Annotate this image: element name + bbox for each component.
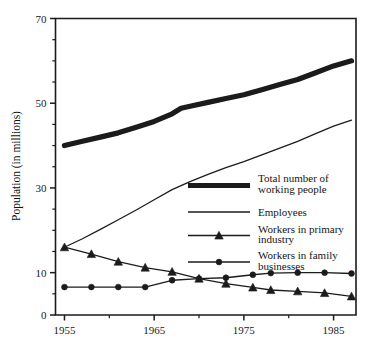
line-chart: Population (in millions) 010305070 19551… (0, 0, 370, 355)
x-tick-label: 1955 (53, 324, 76, 336)
marker-circle (349, 271, 355, 277)
legend-label-line2: businesses (258, 260, 304, 272)
x-tick-label: 1975 (233, 324, 256, 336)
x-tick-label: 1985 (323, 324, 346, 336)
y-tick-label: 70 (36, 13, 48, 25)
x-tick-label: 1965 (143, 324, 166, 336)
marker-circle (115, 284, 121, 290)
legend-label-line1: Employees (258, 206, 307, 218)
marker-circle (142, 284, 148, 290)
marker-circle (322, 270, 328, 276)
legend-label-line2: industry (258, 233, 295, 245)
legend-label-line2: working people (258, 183, 327, 195)
legend-swatch-circle (216, 259, 222, 265)
marker-circle (169, 277, 175, 283)
marker-circle (196, 276, 202, 282)
y-axis-title: Population (in millions) (10, 111, 23, 221)
y-tick-label: 10 (36, 267, 48, 279)
marker-circle (62, 284, 68, 290)
marker-circle (250, 272, 256, 278)
y-tick-label: 30 (36, 182, 48, 194)
marker-circle (223, 275, 229, 281)
y-tick-label: 50 (36, 97, 48, 109)
y-axis-title-label: Population (in millions) (10, 111, 23, 221)
marker-circle (88, 284, 94, 290)
y-tick-label: 0 (41, 309, 47, 321)
chart-container: Population (in millions) 010305070 19551… (0, 0, 370, 355)
